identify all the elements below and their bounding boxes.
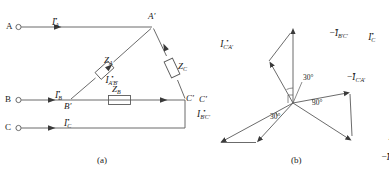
current-label-I-CpAp: • IC′A′ (220, 39, 235, 49)
panel-caption-b: (b) (291, 156, 302, 165)
current-label-I-BpCp: • IB′C′ (197, 109, 212, 119)
impedance-subscript: C (183, 66, 187, 72)
panel-caption-a: (a) (97, 156, 107, 165)
arrow-I-C (48, 125, 56, 130)
arrow-I-BpCp (160, 97, 168, 102)
panel-a-circuit (16, 24, 185, 130)
phasor-dot-icon: • (55, 16, 57, 23)
terminal-label-B: B (5, 95, 11, 104)
phasor-dot-icon: • (371, 31, 373, 38)
node-label-C-prime: C′ (186, 94, 194, 103)
impedance-label-ZC: ZC (178, 62, 187, 72)
impedance-label-ZA: ZA (104, 56, 113, 66)
terminal-label-A: A (6, 22, 13, 31)
phasor-dot-icon: • (352, 71, 354, 78)
phasor-dot-icon: • (335, 27, 337, 34)
vector-label-I-C: • IC (368, 32, 377, 42)
vector-subscript: C′A′ (355, 77, 365, 83)
phasor-dot-icon: • (226, 38, 228, 45)
impedance-subscript: A (109, 60, 113, 66)
phasor-I-BpCp (259, 103, 293, 140)
terminal-B-circle (16, 97, 21, 102)
phasor-dot-icon: • (67, 117, 69, 124)
impedance-subscript: B (117, 89, 121, 95)
vector-label-neg-I-BpCp: −•IB′C′ (330, 28, 350, 38)
phasor-neg-I-CpAp-right (350, 94, 352, 136)
phasor-dot-icon: • (111, 74, 113, 81)
stray-label-C-prime: C′ (199, 95, 207, 104)
vector-subscript: B′C′ (338, 33, 348, 39)
branch-ZC-lower (178, 80, 186, 99)
panel-b-phasors (221, 31, 352, 143)
terminal-label-C: C (5, 123, 11, 132)
branch-ZA-upper (114, 29, 152, 63)
terminal-A-circle (16, 24, 21, 29)
branch-ZC-upper (154, 29, 167, 57)
phasor-neg-I-CpAp (271, 64, 293, 103)
vector-label-neg-I-CpAp: −•IC′A′ (347, 72, 367, 82)
phasor-dot-icon: • (58, 89, 60, 96)
angle-leader-upper (293, 82, 302, 103)
branch-ZA-lower (71, 78, 96, 99)
phasor-I-A (293, 103, 349, 139)
current-label-I-C: • IC (64, 118, 73, 128)
terminal-C-circle (16, 125, 21, 130)
impedance-label-ZB: ZB (112, 85, 121, 95)
vector-label-neg-I-ApBp: −•IA′B′ (382, 152, 389, 162)
phasor-neg-I-BpCp-closing (269, 33, 291, 61)
current-label-I-A: • IA (52, 17, 61, 27)
angle-arc-upper (287, 88, 294, 90)
angle-label-lower-left: 30° (270, 113, 281, 121)
node-label-A-prime: A′ (148, 12, 155, 21)
angle-label-upper: 30° (303, 74, 314, 82)
angle-label-right: 30° (312, 99, 323, 107)
node-label-B-prime: B′ (64, 102, 71, 111)
phasor-dot-icon: • (203, 108, 205, 115)
phasor-I-B (223, 103, 293, 141)
current-label-I-B: • IB (55, 90, 64, 100)
